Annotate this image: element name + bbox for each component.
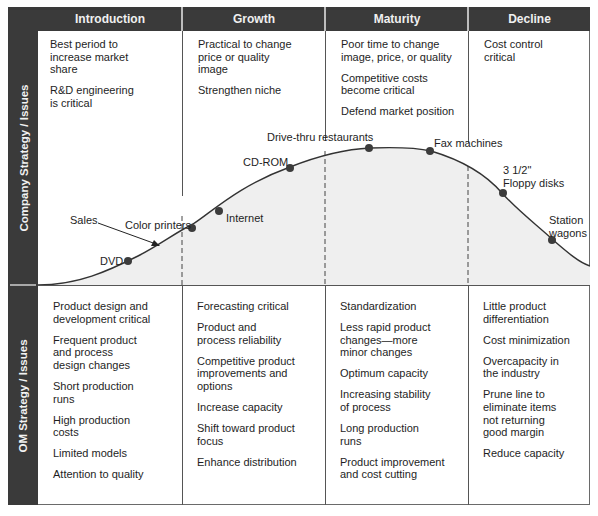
strategy-item: Defend market position xyxy=(341,105,465,118)
dot-fax-machines xyxy=(426,147,434,155)
section-divider xyxy=(38,285,590,286)
om-item: Less rapid product changes—more minor ch… xyxy=(340,321,466,359)
om-cell-maturity: Standardization Less rapid product chang… xyxy=(340,300,466,490)
om-item: Increasing stability of process xyxy=(340,388,466,413)
label-internet: Internet xyxy=(226,212,263,225)
om-item: High production costs xyxy=(53,414,179,439)
label-station-wagons: Station wagons xyxy=(549,214,587,239)
om-item: Long production runs xyxy=(340,422,466,447)
dot-internet xyxy=(215,207,223,215)
strategy-item: Best period to increase market share xyxy=(50,38,178,76)
om-item: Forecasting critical xyxy=(197,300,323,313)
label-cd-rom: CD-ROM xyxy=(243,156,288,169)
label-drive-thru: Drive-thru restaurants xyxy=(267,131,373,144)
company-cell-maturity: Poor time to change image, price, or qua… xyxy=(341,38,465,126)
om-cell-growth: Forecasting critical Product and process… xyxy=(197,300,323,477)
label-fax-machines: Fax machines xyxy=(434,137,502,150)
dot-drive-thru xyxy=(365,144,373,152)
om-item: Product design and development critical xyxy=(53,300,179,325)
label-color-printers: Color printers xyxy=(125,219,191,232)
om-item: Competitive product improvements and opt… xyxy=(197,355,323,393)
om-cell-introduction: Product design and development critical … xyxy=(53,300,179,490)
sales-label: Sales xyxy=(70,214,98,227)
om-item: Overcapacity in the industry xyxy=(483,355,587,380)
row-label-company-strategy: Company Strategy / Issues xyxy=(8,31,38,284)
label-dvd: DVD xyxy=(100,255,123,268)
strategy-item: R&D engineering is critical xyxy=(50,84,178,109)
stage-header-introduction: Introduction xyxy=(38,7,182,31)
dot-floppy-disks xyxy=(499,189,507,197)
label-floppy-disks: 3 1/2" Floppy disks xyxy=(503,164,564,189)
om-item: Cost minimization xyxy=(483,334,587,347)
strategy-item: Cost control critical xyxy=(484,38,584,63)
om-cell-decline: Little product differentiation Cost mini… xyxy=(483,300,587,468)
om-item: Optimum capacity xyxy=(340,367,466,380)
om-item: Enhance distribution xyxy=(197,456,323,469)
om-item: Product and process reliability xyxy=(197,321,323,346)
company-cell-introduction: Best period to increase market share R&D… xyxy=(50,38,178,118)
column-divider xyxy=(325,285,326,505)
om-item: Increase capacity xyxy=(197,401,323,414)
om-item: Attention to quality xyxy=(53,468,179,481)
stage-header-decline: Decline xyxy=(469,7,590,31)
company-cell-growth: Practical to change price or quality ima… xyxy=(198,38,322,105)
strategy-item: Strengthen niche xyxy=(198,84,322,97)
stage-header-growth: Growth xyxy=(183,7,325,31)
om-item: Standardization xyxy=(340,300,466,313)
om-item: Frequent product and process design chan… xyxy=(53,334,179,372)
strategy-item: Poor time to change image, price, or qua… xyxy=(341,38,465,63)
company-cell-decline: Cost control critical xyxy=(484,38,584,72)
strategy-item: Competitive costs become critical xyxy=(341,72,465,97)
om-item: Product improvement and cost cutting xyxy=(340,456,466,481)
om-item: Limited models xyxy=(53,447,179,460)
om-item: Little product differentiation xyxy=(483,300,587,325)
dot-dvd xyxy=(124,257,132,265)
column-divider xyxy=(468,285,469,505)
om-item: Reduce capacity xyxy=(483,447,587,460)
stage-header-maturity: Maturity xyxy=(326,7,468,31)
strategy-item: Practical to change price or quality ima… xyxy=(198,38,322,76)
om-item: Short production runs xyxy=(53,380,179,405)
om-item: Prune line to eliminate items not return… xyxy=(483,388,587,438)
column-divider xyxy=(182,285,183,505)
om-item: Shift toward product focus xyxy=(197,422,323,447)
row-label-om-strategy: OM Strategy / Issues xyxy=(8,286,38,505)
